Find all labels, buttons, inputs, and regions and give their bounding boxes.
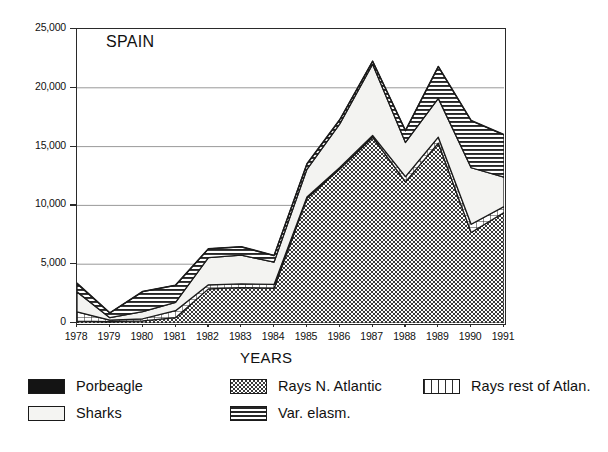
legend-item: Var. elasm. xyxy=(230,405,351,421)
x-axis-title: YEARS xyxy=(240,349,292,366)
legend-label: Rays N. Atlantic xyxy=(278,378,382,394)
x-tick-label: 1989 xyxy=(417,330,457,342)
x-tick-label: 1984 xyxy=(253,330,293,342)
legend: PorbeagleSharksRays N. AtlanticVar. elas… xyxy=(28,378,584,432)
stacked-area-plot xyxy=(77,29,504,323)
x-tick-label: 1983 xyxy=(220,330,260,342)
legend-item: Rays rest of Atlan. xyxy=(423,378,591,394)
y-tick-label: 0 xyxy=(14,315,66,327)
x-tick-label: 1990 xyxy=(450,330,490,342)
legend-item: Sharks xyxy=(28,405,122,421)
area-series-group xyxy=(77,61,504,323)
legend-swatch xyxy=(230,379,267,394)
legend-item: Rays N. Atlantic xyxy=(230,378,382,394)
x-tick-label: 1981 xyxy=(155,330,195,342)
legend-label: Sharks xyxy=(76,405,122,421)
x-tick-label: 1978 xyxy=(56,330,96,342)
legend-label: Var. elasm. xyxy=(278,405,351,421)
legend-label: Porbeagle xyxy=(76,378,143,394)
y-tick-label: 15,000 xyxy=(14,139,66,151)
x-tick-label: 1991 xyxy=(483,330,523,342)
y-tick-label: 10,000 xyxy=(14,197,66,209)
x-tick-label: 1980 xyxy=(122,330,162,342)
legend-label: Rays rest of Atlan. xyxy=(471,378,591,394)
legend-swatch xyxy=(423,379,460,394)
x-tick-label: 1987 xyxy=(352,330,392,342)
chart-figure: TONNES 05,00010,00015,00020,00025,000 19… xyxy=(0,0,608,452)
x-tick-label: 1986 xyxy=(319,330,359,342)
plot-area xyxy=(76,28,506,325)
legend-item: Porbeagle xyxy=(28,378,143,394)
y-tick-label: 5,000 xyxy=(14,256,66,268)
legend-swatch xyxy=(230,406,267,421)
x-tick-label: 1979 xyxy=(89,330,129,342)
legend-swatch xyxy=(28,406,65,421)
x-tick-label: 1985 xyxy=(286,330,326,342)
legend-swatch xyxy=(28,379,65,394)
y-tick-label: 25,000 xyxy=(14,21,66,33)
x-tick-label: 1982 xyxy=(187,330,227,342)
x-tick-label: 1988 xyxy=(384,330,424,342)
chart-region-label: SPAIN xyxy=(106,33,154,51)
y-tick-label: 20,000 xyxy=(14,80,66,92)
